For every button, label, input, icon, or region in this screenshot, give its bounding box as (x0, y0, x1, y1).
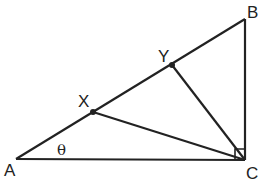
diagram-svg: A B C X Y θ (0, 0, 263, 180)
label-c: C (246, 164, 258, 180)
side-ca (16, 159, 245, 160)
angle-theta-label: θ (57, 141, 66, 159)
segment-yc (172, 65, 245, 160)
label-x: X (78, 92, 89, 111)
point-x (90, 109, 96, 115)
triangle-diagram: A B C X Y θ (0, 0, 263, 180)
segment-xc (93, 112, 245, 160)
label-a: A (4, 161, 16, 180)
label-b: B (247, 3, 258, 22)
point-y (169, 62, 175, 68)
side-ab (16, 19, 245, 159)
label-y: Y (158, 47, 169, 66)
